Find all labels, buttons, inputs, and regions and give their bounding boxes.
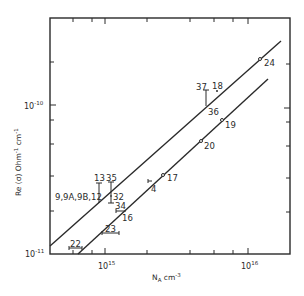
conductivity-chart: 24 37 18 36 19 20 17 4 13 35 9,9A,9B,12 …: [0, 0, 304, 296]
label-22: 22: [70, 239, 81, 249]
x-axis-top-ticks: [73, 18, 248, 24]
x-tick-1e15: 1015: [98, 260, 116, 271]
label-16: 16: [122, 213, 133, 223]
label-13: 13: [94, 173, 105, 183]
label-35: 35: [106, 173, 117, 183]
y-axis-right-ticks: [284, 64, 290, 212]
y-axis-ticks: [50, 62, 56, 211]
y-axis-label: Re (σ) Ohm-1 cm-1: [13, 128, 23, 196]
label-36: 36: [208, 107, 219, 117]
data-markers: [69, 58, 262, 251]
y-tick-1e-11: 10-11: [25, 248, 44, 259]
label-17: 17: [167, 173, 178, 183]
label-34: 34: [115, 201, 126, 211]
plot-frame: [50, 18, 290, 254]
y-tick-1e-10: 10-10: [24, 100, 44, 111]
x-axis-ticks: [73, 248, 248, 254]
label-18: 18: [212, 81, 223, 91]
label-19: 19: [225, 120, 236, 130]
label-20: 20: [204, 141, 215, 151]
label-9-9a-9b-12: 9,9A,9B,12: [55, 192, 102, 202]
label-4: 4: [151, 184, 156, 194]
label-24: 24: [264, 58, 275, 68]
label-23: 23: [105, 224, 116, 234]
upper-fit-line: [50, 41, 281, 246]
x-axis-label: NA cm-3: [152, 272, 181, 283]
label-37: 37: [196, 82, 207, 92]
x-tick-1e16: 1016: [241, 260, 259, 271]
